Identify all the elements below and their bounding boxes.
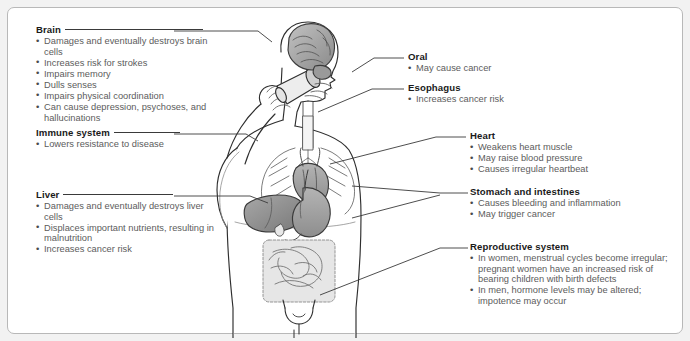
label-list-oral: May cause cancer (408, 63, 578, 74)
label-block-stomach-and-intestines: Stomach and intestines Causes bleeding a… (470, 186, 660, 220)
list-item: Weakens heart muscle (470, 142, 655, 153)
list-item: May trigger cancer (470, 209, 660, 220)
list-item: May cause cancer (408, 63, 578, 74)
label-block-esophagus: Esophagus Increases cancer risk (408, 82, 578, 105)
label-list-stomach-and-intestines: Causes bleeding and inflammation May tri… (470, 198, 660, 220)
list-item: Damages and eventually destroys liver ce… (36, 201, 222, 222)
label-heading-oral: Oral (408, 51, 578, 62)
list-item: Dulls senses (36, 80, 226, 91)
label-heading-brain: Brain (36, 24, 226, 35)
list-item: Causes irregular heartbeat (470, 164, 655, 175)
label-list-liver: Damages and eventually destroys liver ce… (36, 201, 222, 255)
alcohol-effects-diagram: Brain Damages and eventually destroys br… (0, 0, 690, 341)
label-heading-heart: Heart (470, 130, 655, 141)
list-item: Impairs physical coordination (36, 91, 226, 102)
label-heading-oral-text: Oral (408, 51, 428, 62)
label-heading-immune-system: Immune system (36, 127, 226, 138)
label-list-heart: Weakens heart muscle May raise blood pre… (470, 142, 655, 175)
list-item: Can cause depression, psychoses, and hal… (36, 102, 226, 123)
label-block-immune-system: Immune system Lowers resistance to disea… (36, 127, 226, 150)
label-heading-immune-system-text: Immune system (36, 127, 110, 138)
list-item: Displaces important nutrients, resulting… (36, 223, 222, 244)
label-list-immune-system: Lowers resistance to disease (36, 139, 226, 150)
label-block-heart: Heart Weakens heart muscle May raise blo… (470, 130, 655, 175)
label-list-reproductive-system: In women, menstrual cycles become irregu… (470, 253, 670, 306)
label-heading-esophagus-text: Esophagus (408, 82, 461, 93)
list-item: In women, menstrual cycles become irregu… (470, 253, 670, 285)
label-heading-brain-text: Brain (36, 24, 61, 35)
label-heading-reproductive-system: Reproductive system (470, 241, 670, 252)
label-block-brain: Brain Damages and eventually destroys br… (36, 24, 226, 123)
label-heading-esophagus: Esophagus (408, 82, 578, 93)
label-heading-liver-text: Liver (36, 189, 59, 200)
leader-rule-liver (63, 194, 173, 195)
list-item: Impairs memory (36, 69, 226, 80)
label-heading-stomach-and-intestines-text: Stomach and intestines (470, 186, 580, 197)
label-heading-reproductive-system-text: Reproductive system (470, 241, 569, 252)
list-item: Causes bleeding and inflammation (470, 198, 660, 209)
label-list-esophagus: Increases cancer risk (408, 94, 578, 105)
list-item: Damages and eventually destroys brain ce… (36, 36, 226, 57)
label-block-reproductive-system: Reproductive system In women, menstrual … (470, 241, 670, 306)
label-block-oral: Oral May cause cancer (408, 51, 578, 74)
label-heading-heart-text: Heart (470, 130, 495, 141)
list-item: Increases cancer risk (408, 94, 578, 105)
leader-rule-immune-system (114, 132, 180, 133)
list-item: Lowers resistance to disease (36, 139, 226, 150)
label-heading-liver: Liver (36, 189, 222, 200)
label-list-brain: Damages and eventually destroys brain ce… (36, 36, 226, 123)
list-item: Increases cancer risk (36, 244, 222, 255)
label-block-liver: Liver Damages and eventually destroys li… (36, 189, 222, 255)
list-item: May raise blood pressure (470, 153, 655, 164)
list-item: Increases risk for strokes (36, 58, 226, 69)
label-heading-stomach-and-intestines: Stomach and intestines (470, 186, 660, 197)
leader-rule-brain (65, 29, 203, 30)
list-item: In men, hormone levels may be altered; i… (470, 285, 670, 306)
